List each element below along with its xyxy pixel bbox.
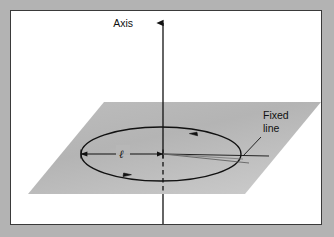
figure-frame: | ============ --> Axis Fixed line ℓ [10,10,322,225]
axis-label: Axis [113,17,133,29]
geometry-diagram-svg: | ============ --> Axis Fixed line ℓ [11,11,321,224]
figure-root: | ============ --> Axis Fixed line ℓ [0,0,334,237]
fixed-line-label-line1: Fixed [263,109,289,121]
radius-label: ℓ [119,148,124,160]
fixed-line-label-line2: line [263,122,280,134]
